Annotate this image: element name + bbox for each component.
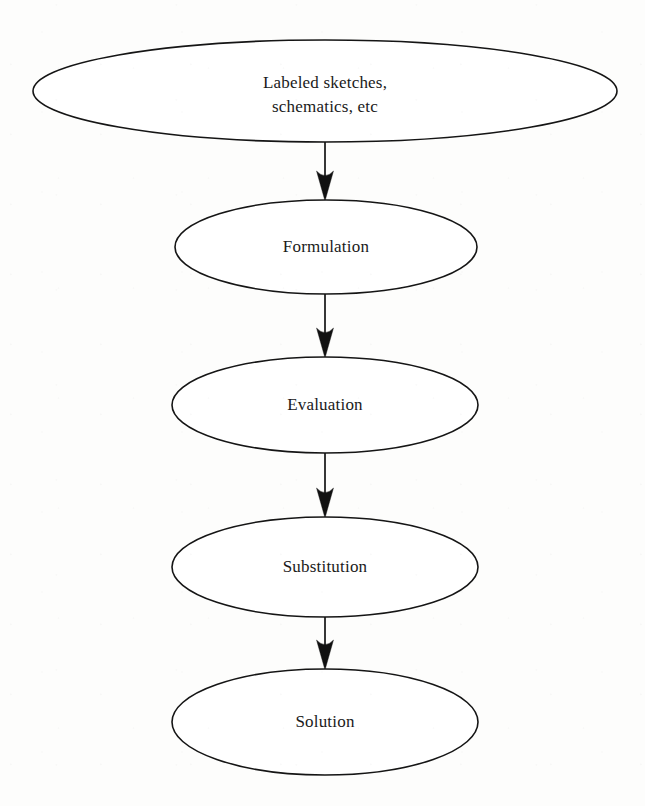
edge-sketches-formulation xyxy=(317,142,334,201)
flowchart-page: Labeled sketches, schematics, etc Formul… xyxy=(0,0,645,806)
node-label: Evaluation xyxy=(287,395,363,414)
edge-evaluation-substitution xyxy=(317,453,334,518)
node-label: Labeled sketches, xyxy=(263,73,387,92)
node-substitution[interactable]: Substitution xyxy=(172,517,478,617)
node-label: Solution xyxy=(295,712,355,731)
node-label: Substitution xyxy=(283,557,368,576)
node-formulation[interactable]: Formulation xyxy=(175,200,477,294)
arrowhead-icon xyxy=(317,488,334,518)
arrowhead-icon xyxy=(317,171,334,201)
edge-substitution-solution xyxy=(317,617,334,670)
node-labeled-sketches[interactable]: Labeled sketches, schematics, etc xyxy=(33,40,617,142)
edge-formulation-evaluation xyxy=(317,294,334,358)
flowchart-canvas: Labeled sketches, schematics, etc Formul… xyxy=(0,0,645,806)
node-solution[interactable]: Solution xyxy=(172,669,478,775)
node-label: Formulation xyxy=(283,237,370,256)
arrowhead-icon xyxy=(317,328,334,358)
node-label-line2: schematics, etc xyxy=(272,97,378,116)
arrowhead-icon xyxy=(317,640,334,670)
node-evaluation[interactable]: Evaluation xyxy=(172,357,478,453)
